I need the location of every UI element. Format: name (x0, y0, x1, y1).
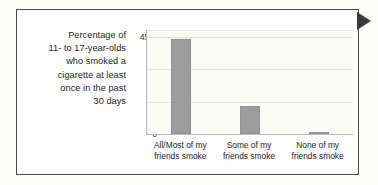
caption-line: cigarette at least (22, 69, 126, 82)
caption-line: 11- to 17-year-olds (22, 42, 126, 55)
plot-top-edge (147, 30, 353, 31)
caption-line: 30 days (22, 95, 126, 108)
x-axis-tick-label-line: All/Most of my (146, 140, 215, 151)
chart-figure: Percentage of 11- to 17-year-olds who sm… (0, 0, 378, 185)
gridline (147, 37, 353, 38)
caption-line: once in the past (22, 82, 126, 95)
chart-caption: Percentage of 11- to 17-year-olds who sm… (22, 29, 126, 108)
x-axis-labels: All/Most of myfriends smokeSome of myfri… (146, 140, 352, 170)
x-axis-tick-label-line: friends smoke (215, 151, 284, 162)
plot-area (146, 30, 353, 135)
bar (171, 39, 191, 134)
bar (240, 106, 260, 134)
x-axis-tick-label: None of myfriends smoke (283, 140, 352, 162)
x-axis-tick-label-line: friends smoke (283, 151, 352, 162)
x-axis-tick-label: All/Most of myfriends smoke (146, 140, 215, 162)
bar (309, 132, 329, 134)
caption-line: Percentage of (22, 29, 126, 42)
x-axis-tick-label-line: friends smoke (146, 151, 215, 162)
x-axis-tick-label: Some of myfriends smoke (215, 140, 284, 162)
triangle-right-icon (357, 12, 371, 30)
caption-line: who smoked a (22, 55, 126, 68)
bar-chart: 0153045% All/Most of myfriends smokeSome… (131, 30, 353, 170)
x-axis-tick-label-line: None of my (283, 140, 352, 151)
x-axis-tick-label-line: Some of my (215, 140, 284, 151)
